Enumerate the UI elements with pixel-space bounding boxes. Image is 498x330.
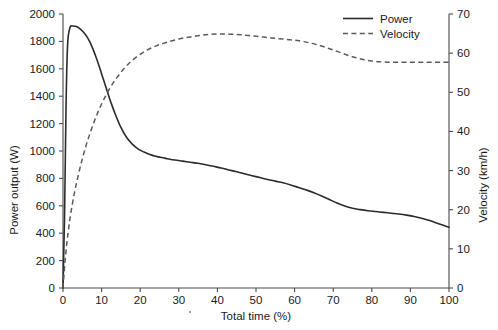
- y-axis-right-tick-marks: [449, 14, 453, 288]
- x-axis-tick-label: 0: [60, 294, 66, 306]
- y-axis-left-tick-label: 1200: [29, 118, 55, 130]
- y-axis-right-tick-label: 50: [457, 86, 470, 98]
- x-axis-tick-label: 30: [172, 294, 185, 306]
- y-axis-left-tick-labels: 0200400600800100012001400160018002000: [29, 8, 55, 294]
- x-axis-title: Total time (%): [221, 310, 291, 322]
- y-axis-right-tick-label: 70: [457, 8, 470, 20]
- x-axis-tick-marks: [63, 288, 449, 292]
- x-axis-tick-label: 70: [327, 294, 340, 306]
- y-axis-left-tick-label: 1800: [29, 35, 55, 47]
- x-axis-tick-label: 90: [404, 294, 417, 306]
- y-axis-left-tick-label: 1600: [29, 63, 55, 75]
- x-axis-tick-label: 100: [439, 294, 458, 306]
- y-axis-left-tick-label: 800: [36, 172, 55, 184]
- y-axis-right-tick-label: 20: [457, 204, 470, 216]
- legend-label-velocity: Velocity: [380, 28, 420, 40]
- x-axis-tick-label: 50: [250, 294, 263, 306]
- y-axis-left-tick-label: 1400: [29, 90, 55, 102]
- series-line-velocity: [63, 34, 449, 288]
- x-axis-tick-label: 40: [211, 294, 224, 306]
- series-line-power: [63, 26, 449, 288]
- chart-container: 0200400600800100012001400160018002000 01…: [0, 0, 498, 330]
- y-axis-right-tick-label: 60: [457, 47, 470, 59]
- stray-speck-artifact: [189, 311, 191, 313]
- y-axis-left-tick-label: 0: [49, 282, 55, 294]
- y-axis-right-tick-label: 40: [457, 125, 470, 137]
- y-axis-left-tick-label: 200: [36, 255, 55, 267]
- x-axis-tick-label: 10: [95, 294, 108, 306]
- x-axis-tick-labels: 0102030405060708090100: [60, 294, 459, 306]
- y-axis-left-tick-label: 400: [36, 227, 55, 239]
- y-axis-right-tick-label: 0: [457, 282, 463, 294]
- y-axis-left-title: Power output (W): [8, 145, 20, 235]
- y-axis-left-tick-label: 600: [36, 200, 55, 212]
- y-axis-right-tick-labels: 010203040506070: [457, 8, 470, 294]
- y-axis-right-title: Velocity (km/h): [477, 147, 489, 223]
- chart-legend: Power Velocity: [343, 13, 420, 40]
- y-axis-left-tick-label: 2000: [29, 8, 55, 20]
- chart-canvas: 0200400600800100012001400160018002000 01…: [0, 0, 498, 330]
- x-axis-tick-label: 60: [288, 294, 301, 306]
- y-axis-right-tick-label: 10: [457, 243, 470, 255]
- y-axis-left-tick-label: 1000: [29, 145, 55, 157]
- y-axis-right-tick-label: 30: [457, 165, 470, 177]
- legend-label-power: Power: [380, 13, 413, 25]
- x-axis-tick-label: 20: [134, 294, 147, 306]
- x-axis-tick-label: 80: [365, 294, 378, 306]
- y-axis-left-tick-marks: [59, 14, 63, 288]
